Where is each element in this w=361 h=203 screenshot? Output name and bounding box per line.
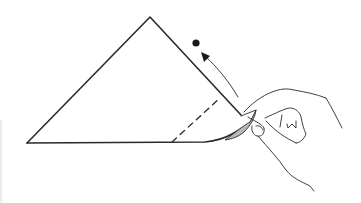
diagram-svg xyxy=(0,0,361,203)
origami-diagram xyxy=(0,0,361,203)
fold-arrow-icon xyxy=(201,52,238,97)
triangle-bottom-edge xyxy=(27,126,246,143)
target-dot-icon xyxy=(192,39,199,46)
paper-triangle xyxy=(27,17,246,143)
triangle-top-edges xyxy=(27,17,241,143)
hand-illustration xyxy=(244,89,342,191)
fold-line-dashed xyxy=(172,98,220,142)
